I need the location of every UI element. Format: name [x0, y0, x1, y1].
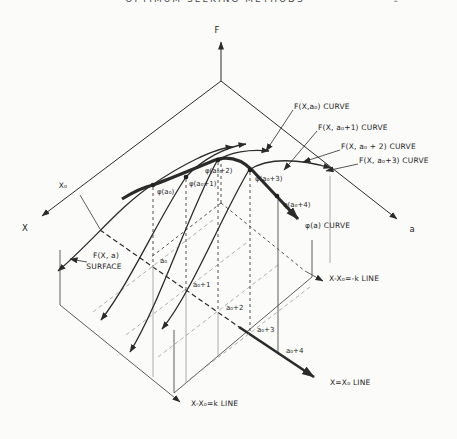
phi-point-label-3: φ(a₀+3) — [255, 175, 283, 183]
floor-point-label-0: a₀ — [160, 257, 167, 265]
floor-point-label-1: a₀+1 — [193, 281, 210, 289]
a-axis-label: a — [409, 224, 414, 234]
minus-k-line-arrow — [305, 271, 323, 281]
plus-k-line-label: X-X₀=k LINE — [191, 399, 238, 408]
x0-connector-line — [80, 195, 100, 229]
x0-tick-label: X₀ — [59, 181, 68, 190]
floor-point-label-2: a₀+2 — [226, 304, 243, 312]
labels-group: F(X,a₀) CURVE F(X, a₀+1) CURVE F(X, a₀ +… — [86, 102, 429, 408]
floor-group — [60, 158, 330, 402]
floor-point-label-3: a₀+3 — [257, 326, 274, 334]
phi-point-dot — [216, 158, 221, 163]
phi-point-dot — [275, 194, 280, 199]
x-axis — [42, 81, 221, 216]
phi-point-label-0: φ(a₀) — [157, 188, 174, 196]
leader-line — [284, 131, 317, 170]
phi-point-label-1: φ(a₀+1) — [189, 180, 217, 188]
surface-leader-line — [70, 259, 87, 262]
plus-k-line — [60, 305, 180, 402]
minus-k-line-label: X-X₀=-k LINE — [329, 274, 379, 283]
surface-label-line1: F(X, a) — [93, 251, 119, 260]
curve-label-0: F(X,a₀) CURVE — [294, 102, 350, 111]
curve-label-1: F(X, a₀+1) CURVE — [318, 123, 388, 132]
curve-label-3: F(X, a₀+3) CURVE — [359, 156, 429, 165]
phi-point-dot — [248, 168, 253, 173]
x-axis-label: X — [22, 223, 28, 233]
phi-point-label-4: φ(a₀+4) — [283, 201, 311, 209]
floor-front-right-edge — [174, 277, 312, 393]
phi-point-label-2: φ(a₀+2) — [205, 167, 233, 175]
figure-page: OPTIMUM SEEKING METHODS 1 F X a X₀ — [0, 0, 457, 439]
x0-line-label: X=X₀ LINE — [330, 378, 371, 387]
phi-point-dot — [151, 183, 156, 188]
leader-line — [266, 110, 293, 151]
diagram-svg: F X a X₀ — [0, 0, 457, 439]
phi-curve-label: φ(a) CURVE — [305, 221, 350, 230]
floor-point-label-4: a₀+4 — [286, 347, 304, 355]
f-axis-label: F — [215, 25, 220, 35]
surface-label-line2: SURFACE — [86, 262, 122, 271]
phi-point-dot — [184, 175, 189, 180]
f-curve-a0p3 — [162, 161, 331, 329]
curve-label-2: F(X, a₀ + 2) CURVE — [341, 142, 416, 151]
surface-curves-group — [58, 144, 331, 352]
